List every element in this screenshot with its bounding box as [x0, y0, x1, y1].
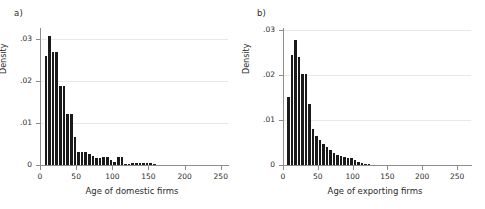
x-tick-label: 250: [206, 172, 236, 181]
histogram-bar: [367, 164, 370, 165]
x-tick-mark: [148, 166, 149, 170]
y-tick-label: .03: [249, 26, 275, 34]
panel-b-x-axis-title: Age of exporting firms: [269, 186, 481, 196]
x-tick-mark: [353, 166, 354, 170]
panel-a-y-axis-title: Density: [0, 44, 8, 74]
panel-b-x-axis-line: [283, 165, 472, 166]
panel-b-plot-area: [283, 28, 471, 165]
panel-b-tag: b): [257, 8, 266, 18]
x-tick-mark: [283, 166, 284, 170]
x-tick-label: 150: [372, 172, 402, 181]
y-tick-label: .01: [6, 119, 32, 127]
x-tick-mark: [185, 166, 186, 170]
x-tick-label: 100: [338, 172, 368, 181]
x-tick-mark: [76, 166, 77, 170]
x-tick-mark: [318, 166, 319, 170]
x-tick-mark: [40, 166, 41, 170]
y-tick-label: 0: [6, 161, 32, 169]
x-tick-mark: [422, 166, 423, 170]
panel-a-bars: [40, 28, 228, 165]
x-tick-mark: [457, 166, 458, 170]
x-tick-label: 100: [97, 172, 127, 181]
x-tick-label: 0: [268, 172, 298, 181]
x-tick-label: 250: [442, 172, 472, 181]
panel-b-bars: [283, 28, 471, 165]
x-tick-mark: [221, 166, 222, 170]
y-tick-label: .02: [249, 71, 275, 79]
panel-a-x-axis-line: [40, 165, 229, 166]
y-tick-label: .02: [6, 77, 32, 85]
x-tick-label: 0: [25, 172, 55, 181]
panel-a-domestic-firms: a) 0.01.02.03 050100150200250 Density Ag…: [0, 0, 242, 209]
x-tick-mark: [112, 166, 113, 170]
y-tick-mark: [36, 39, 40, 40]
x-tick-mark: [387, 166, 388, 170]
x-tick-label: 50: [303, 172, 333, 181]
y-tick-mark: [36, 123, 40, 124]
x-tick-label: 200: [407, 172, 437, 181]
panel-b-y-axis-title: Density: [242, 44, 251, 74]
panel-a-tag: a): [14, 8, 23, 18]
y-tick-mark: [279, 30, 283, 31]
panel-a-plot-area: [40, 28, 228, 165]
x-tick-label: 150: [133, 172, 163, 181]
x-tick-label: 200: [170, 172, 200, 181]
histogram-bar: [152, 164, 156, 165]
y-tick-mark: [279, 75, 283, 76]
y-tick-label: .03: [6, 35, 32, 43]
figure-histograms-firm-age: a) 0.01.02.03 050100150200250 Density Ag…: [0, 0, 485, 209]
y-tick-label: 0: [249, 161, 275, 169]
y-tick-mark: [36, 81, 40, 82]
y-tick-mark: [279, 120, 283, 121]
panel-b-exporting-firms: b) 0.01.02.03 050100150200250 Density Ag…: [243, 0, 485, 209]
panel-a-x-axis-title: Age of domestic firms: [26, 186, 238, 196]
y-tick-label: .01: [249, 116, 275, 124]
x-tick-label: 50: [61, 172, 91, 181]
